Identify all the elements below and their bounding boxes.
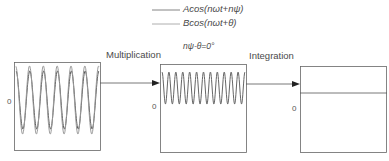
zero-label-product: 0 bbox=[152, 102, 156, 111]
panel-integrated-box bbox=[301, 67, 387, 153]
integration-label: Integration bbox=[249, 50, 294, 61]
zero-label-integrated: 0 bbox=[292, 104, 296, 113]
legend-label-a: Acos(nωt+nψ) bbox=[183, 3, 244, 14]
multiplication-label: Multiplication bbox=[106, 49, 161, 60]
panel-product-box bbox=[161, 65, 247, 153]
legend-label-b: Bcos(nωt+θ) bbox=[183, 17, 236, 28]
waveform-product bbox=[162, 72, 245, 104]
arrow-multiplication-head bbox=[152, 80, 160, 86]
arrow-integration-head bbox=[292, 81, 300, 87]
phase-condition-label: nψ-θ=0° bbox=[183, 41, 214, 51]
zero-label-input: 0 bbox=[7, 97, 11, 106]
